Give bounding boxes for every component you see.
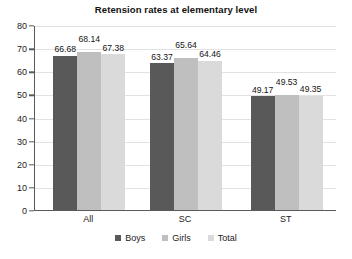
- chart-legend: BoysGirlsTotal: [0, 233, 352, 243]
- y-axis-tick-label: 70: [17, 44, 27, 54]
- y-axis-tick-label: 30: [17, 137, 27, 147]
- legend-label: Boys: [125, 233, 145, 243]
- bar-value-label: 65.64: [175, 41, 197, 50]
- bar-total-st[interactable]: 49.35: [299, 96, 323, 210]
- plot-area: 66.6868.1467.3863.3765.6464.4649.1749.53…: [34, 26, 336, 211]
- bar-value-label: 49.17: [252, 86, 274, 95]
- bar-boys-st[interactable]: 49.17: [251, 96, 275, 210]
- legend-item-boys[interactable]: Boys: [115, 233, 145, 243]
- x-axis: AllSCST: [34, 211, 336, 229]
- bar-series-group: 66.6868.1467.3863.3765.6464.4649.1749.53…: [35, 26, 336, 210]
- bar-girls-all[interactable]: 68.14: [77, 52, 101, 210]
- bar-value-label: 49.35: [300, 85, 322, 94]
- x-axis-tick-label: All: [83, 214, 93, 224]
- bar-value-label: 64.46: [199, 50, 221, 59]
- y-axis-tick-label: 50: [17, 90, 27, 100]
- legend-swatch-icon: [162, 235, 168, 241]
- y-axis-tick-label: 80: [17, 21, 27, 31]
- bar-cluster: 63.3765.6464.46: [150, 26, 222, 210]
- bar-cluster: 66.6868.1467.38: [53, 26, 125, 210]
- y-axis-tick-label: 40: [17, 114, 27, 124]
- bar-total-sc[interactable]: 64.46: [198, 61, 222, 210]
- x-axis-tick-label: ST: [280, 214, 292, 224]
- chart-title: Retension rates at elementary level: [0, 4, 352, 15]
- bar-boys-all[interactable]: 66.68: [53, 56, 77, 210]
- bar-girls-sc[interactable]: 65.64: [174, 58, 198, 210]
- bar-value-label: 68.14: [79, 35, 101, 44]
- bar-cluster: 49.1749.5349.35: [251, 26, 323, 210]
- legend-swatch-icon: [115, 235, 121, 241]
- y-axis-tick-label: 60: [17, 67, 27, 77]
- bar-total-all[interactable]: 67.38: [101, 54, 125, 210]
- legend-item-girls[interactable]: Girls: [162, 233, 191, 243]
- bar-value-label: 67.38: [103, 44, 125, 53]
- legend-item-total[interactable]: Total: [208, 233, 237, 243]
- x-axis-tick-label: SC: [179, 214, 192, 224]
- legend-swatch-icon: [208, 235, 214, 241]
- y-axis: 80706050403020100: [0, 26, 34, 211]
- y-axis-tick-label: 10: [17, 183, 27, 193]
- legend-label: Girls: [172, 233, 191, 243]
- bar-chart: Retension rates at elementary level 8070…: [0, 0, 352, 259]
- bar-boys-sc[interactable]: 63.37: [150, 63, 174, 210]
- bar-value-label: 63.37: [151, 53, 173, 62]
- y-axis-tick-label: 0: [22, 206, 27, 216]
- bar-value-label: 66.68: [55, 45, 77, 54]
- bar-value-label: 49.53: [276, 78, 298, 87]
- legend-label: Total: [218, 233, 237, 243]
- y-axis-tick-label: 20: [17, 160, 27, 170]
- bar-girls-st[interactable]: 49.53: [275, 95, 299, 210]
